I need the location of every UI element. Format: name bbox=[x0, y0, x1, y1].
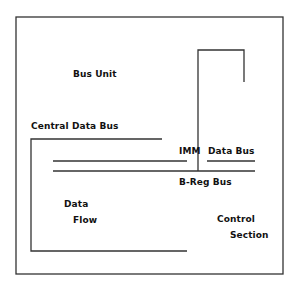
control-label: Control bbox=[217, 214, 255, 224]
data-flow-outline bbox=[31, 139, 187, 251]
flow-label: Flow bbox=[73, 215, 97, 225]
section-label: Section bbox=[230, 230, 269, 240]
data-label: Data bbox=[64, 199, 88, 209]
bus-unit-label: Bus Unit bbox=[73, 69, 117, 79]
data-bus-label: Data Bus bbox=[208, 146, 254, 156]
b-reg-bus-label: B-Reg Bus bbox=[179, 177, 232, 187]
imm-label: IMM bbox=[179, 146, 201, 156]
central-data-bus-label: Central Data Bus bbox=[31, 121, 118, 131]
diagram-canvas bbox=[0, 0, 295, 289]
